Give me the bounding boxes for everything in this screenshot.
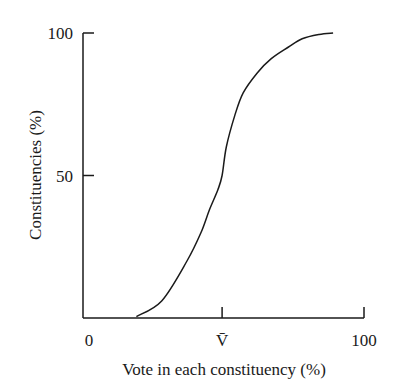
y-tick-label: 50 — [56, 167, 73, 186]
chart: 50100 0V̄100 Constituencies (%) Vote in … — [0, 0, 398, 390]
x-axis-title: Vote in each constituency (%) — [122, 360, 326, 379]
x-tick-label: 100 — [351, 331, 377, 350]
x-tick-label: V̄ — [216, 331, 229, 350]
x-tick-label: 0 — [85, 331, 94, 350]
series-line — [136, 33, 333, 317]
y-axis-title: Constituencies (%) — [26, 110, 45, 240]
axes — [83, 33, 364, 318]
y-tick-label: 100 — [48, 24, 74, 43]
